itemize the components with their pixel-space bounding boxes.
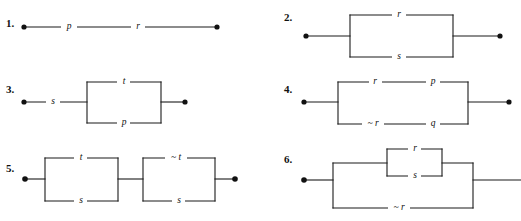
- switch-label-s-3: s: [51, 96, 55, 106]
- circuit-diagram-4: r p ~ r q: [260, 60, 521, 138]
- problem-1: 1. p r: [0, 0, 260, 60]
- switch-label-p-1: p: [66, 21, 72, 31]
- terminal-left-1: [21, 24, 26, 29]
- switch-label-r-2: r: [397, 9, 401, 19]
- terminal-right-4: [506, 99, 511, 104]
- problem-6: 6. r s ~ r: [260, 138, 521, 221]
- switch-label-r-6: r: [413, 143, 417, 153]
- problem-4: 4. r p ~ r q: [260, 60, 521, 138]
- circuit-diagram-3: s t p: [0, 60, 260, 138]
- circuit-diagram-2: r s: [260, 0, 521, 60]
- switch-label-not-t-5: ~ t: [171, 152, 182, 162]
- terminal-right-2: [497, 33, 502, 38]
- switch-label-t-5: t: [80, 152, 83, 162]
- terminal-left-5: [22, 176, 28, 182]
- worksheet-page: 1. p r 2.: [0, 0, 521, 221]
- switch-label-r-1: r: [136, 21, 140, 31]
- problem-5: 5. t s: [0, 138, 260, 221]
- terminal-right-1: [214, 24, 219, 29]
- terminal-right-3: [182, 99, 187, 104]
- terminal-right-5: [232, 176, 238, 182]
- switch-label-s-block2-5: s: [177, 195, 181, 205]
- switch-label-p-3: p: [121, 117, 127, 127]
- problem-2: 2. r s: [260, 0, 521, 60]
- switch-label-p-4: p: [430, 76, 436, 86]
- switch-label-not-r-6: ~ r: [393, 202, 405, 212]
- switch-label-q-4: q: [431, 118, 436, 128]
- circuit-diagram-1: p r: [0, 0, 260, 60]
- circuit-diagram-6: r s ~ r: [260, 138, 521, 221]
- switch-label-t-3: t: [123, 76, 126, 86]
- problem-3: 3. s t p: [0, 60, 260, 138]
- circuit-diagram-5: t s ~ t s: [0, 138, 260, 221]
- switch-label-not-r-4: ~ r: [367, 118, 379, 128]
- switch-label-r-4: r: [373, 76, 377, 86]
- terminal-left-4: [301, 99, 306, 104]
- switch-label-s-block1-5: s: [79, 195, 83, 205]
- terminal-left-2: [303, 33, 308, 38]
- terminal-left-6: [301, 177, 307, 183]
- switch-label-s-6: s: [413, 170, 417, 180]
- terminal-left-3: [21, 99, 26, 104]
